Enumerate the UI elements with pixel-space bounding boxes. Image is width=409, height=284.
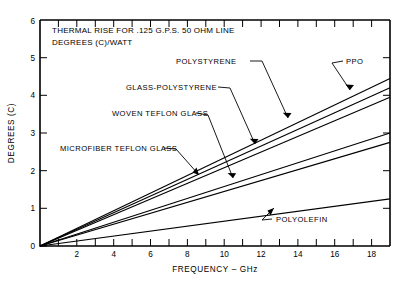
thermal-rise-chart-figure: 0 1 2 3 4 5 6 xyxy=(0,0,409,284)
x-tick-label-2: 2 xyxy=(75,250,80,259)
chart-note-line-1: THERMAL RISE FOR .125 G.P.S. 50 OHM LINE xyxy=(52,26,235,35)
series-label-ppo: PPO xyxy=(346,57,363,66)
y-tick-label-4: 4 xyxy=(30,91,35,100)
y-tick-label-3: 3 xyxy=(30,129,35,138)
series-line-glass-polystyrene xyxy=(40,97,390,246)
series-label-polystyrene: POLYSTYRENE xyxy=(176,57,237,66)
x-tick-label-12: 12 xyxy=(257,250,267,259)
y-tick-label-0: 0 xyxy=(30,242,35,251)
annotation-microfiber-teflon-glass: MICROFIBER TEFLON GLASS xyxy=(60,144,199,175)
leader-line-glass-polystyrene xyxy=(218,87,255,144)
x-tick-label-16: 16 xyxy=(330,250,340,259)
series-label-glass-polystyrene: GLASS-POLYSTYRENE xyxy=(126,83,217,92)
y-tick-label-5: 5 xyxy=(30,54,35,63)
y-tick-label-2: 2 xyxy=(30,167,35,176)
chart-canvas: 0 1 2 3 4 5 6 xyxy=(0,0,409,284)
data-series-group xyxy=(40,78,390,246)
x-axis-title: FREQUENCY – GHz xyxy=(172,265,258,274)
series-label-woven-teflon-glass: WOVEN TEFLON GLASS xyxy=(112,109,208,118)
x-tick-label-4: 4 xyxy=(111,250,116,259)
chart-note-line-2: DEGREES (C)/WATT xyxy=(52,38,132,47)
y-axis-tick-labels: 0 1 2 3 4 5 6 xyxy=(30,17,35,252)
x-tick-label-10: 10 xyxy=(220,250,230,259)
x-axis-tick-labels: 2 4 6 8 10 12 14 16 18 xyxy=(75,250,377,259)
series-line-ppo xyxy=(40,78,390,246)
x-tick-label-14: 14 xyxy=(293,250,303,259)
y-tick-label-6: 6 xyxy=(30,17,35,26)
annotation-ppo: PPO xyxy=(332,57,363,90)
series-line-microfiber-teflon-glass xyxy=(40,142,390,246)
annotation-polyolefin: POLYOLEFIN xyxy=(262,208,328,224)
x-tick-label-18: 18 xyxy=(367,250,377,259)
y-tick-label-1: 1 xyxy=(30,204,35,213)
x-tick-label-6: 6 xyxy=(148,250,153,259)
y-axis-ticks xyxy=(40,58,47,246)
series-label-microfiber-teflon-glass: MICROFIBER TEFLON GLASS xyxy=(60,144,177,153)
leader-line-polystyrene xyxy=(250,61,288,118)
leader-arrow-woven-teflon-glass xyxy=(228,173,237,178)
x-axis-ticks-bottom xyxy=(58,239,371,246)
y-axis-title: DEGREES (C) xyxy=(7,103,16,163)
leader-arrow-ppo xyxy=(346,85,355,91)
x-tick-label-8: 8 xyxy=(185,250,190,259)
series-label-polyolefin: POLYOLEFIN xyxy=(276,215,328,224)
